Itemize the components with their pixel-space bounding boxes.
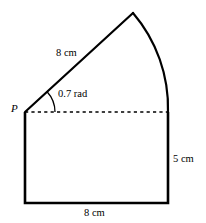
length-label-right-side: 5 cm <box>173 154 194 165</box>
geometry-figure: P 8 cm 0.7 rad 5 cm 8 cm <box>0 0 206 223</box>
rectangle-outline <box>25 112 168 203</box>
figure-canvas <box>0 0 206 223</box>
length-label-radius: 8 cm <box>56 48 77 59</box>
length-label-base: 8 cm <box>84 208 105 219</box>
angle-arc-indicator <box>47 92 55 112</box>
sector-arc <box>133 13 168 112</box>
angle-label: 0.7 rad <box>58 89 87 100</box>
vertex-label-p: P <box>11 103 18 114</box>
